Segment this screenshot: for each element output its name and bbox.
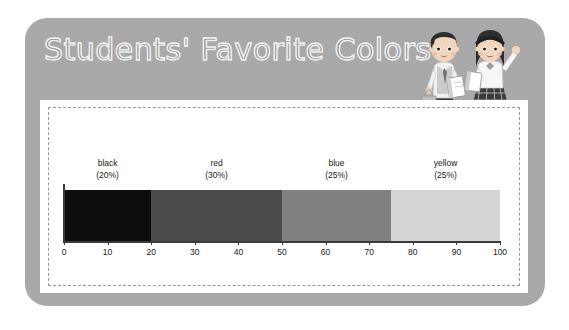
segment-label-red: red(30%): [177, 158, 257, 181]
x-tick-label-30: 30: [180, 247, 210, 257]
x-tick-20: [151, 241, 152, 245]
boy-book: [447, 76, 466, 98]
x-tick-label-0: 0: [49, 247, 79, 257]
x-tick-label-60: 60: [311, 247, 341, 257]
girl-book: [465, 71, 482, 92]
x-tick-label-20: 20: [136, 247, 166, 257]
x-tick-100: [500, 241, 501, 245]
x-tick-label-70: 70: [354, 247, 384, 257]
segment-label-percent: (25%): [406, 170, 486, 182]
x-tick-90: [456, 241, 457, 245]
bar-segment-red[interactable]: [151, 190, 282, 241]
bar-segment-blue[interactable]: [282, 190, 391, 241]
y-axis-line: [63, 184, 65, 242]
x-tick-label-50: 50: [267, 247, 297, 257]
chart-panel: black(20%)red(30%)blue(25%)yellow(25%) 0…: [40, 100, 528, 293]
x-tick-60: [326, 241, 327, 245]
segment-label-black: black(20%): [68, 158, 148, 181]
stacked-bar: [64, 190, 500, 241]
x-tick-label-10: 10: [93, 247, 123, 257]
segment-label-blue: blue(25%): [297, 158, 377, 181]
x-tick-label-40: 40: [223, 247, 253, 257]
segment-label-percent: (25%): [297, 170, 377, 182]
segment-label-name: yellow: [406, 158, 486, 170]
segment-label-name: red: [177, 158, 257, 170]
segment-label-percent: (20%): [68, 170, 148, 182]
x-tick-label-100: 100: [485, 247, 515, 257]
bar-segment-black[interactable]: [64, 190, 151, 241]
poster-stage: Students' Favorite Colors: [0, 0, 569, 330]
x-tick-0: [64, 241, 65, 245]
segment-label-yellow: yellow(25%): [406, 158, 486, 181]
segment-label-name: black: [68, 158, 148, 170]
segment-label-name: blue: [297, 158, 377, 170]
x-tick-30: [195, 241, 196, 245]
x-tick-label-80: 80: [398, 247, 428, 257]
bar-chart: black(20%)red(30%)blue(25%)yellow(25%) 0…: [40, 100, 528, 293]
x-tick-40: [238, 241, 239, 245]
page-title: Students' Favorite Colors: [44, 32, 431, 67]
bar-segment-yellow[interactable]: [391, 190, 500, 241]
x-tick-80: [413, 241, 414, 245]
segment-label-percent: (30%): [177, 170, 257, 182]
x-tick-label-90: 90: [441, 247, 471, 257]
x-tick-10: [108, 241, 109, 245]
x-tick-50: [282, 241, 283, 245]
x-tick-70: [369, 241, 370, 245]
